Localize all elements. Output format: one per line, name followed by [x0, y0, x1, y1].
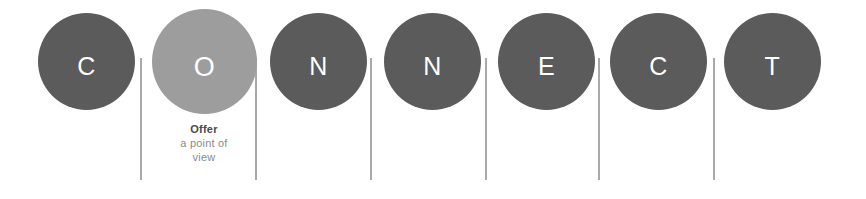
step-letter: T [765, 54, 781, 79]
step-circle-n1[interactable]: N [270, 13, 367, 110]
step-letter: C [77, 54, 96, 79]
step-separator-3 [370, 58, 372, 180]
connect-acronym-diagram: C O N N E C T Offer a point of view [0, 0, 866, 199]
step-letter: E [538, 54, 555, 79]
step-separator-6 [713, 58, 715, 180]
step-circle-t[interactable]: T [724, 13, 821, 110]
circle-shape: E [498, 13, 595, 110]
step-circle-o[interactable]: O [156, 13, 253, 110]
circle-shape: T [724, 13, 821, 110]
step-separator-4 [485, 58, 487, 180]
step-caption-title: Offer [139, 122, 269, 136]
step-circle-c2[interactable]: C [610, 13, 707, 110]
circle-shape: C [610, 13, 707, 110]
step-circle-n2[interactable]: N [384, 13, 481, 110]
circle-shape: N [270, 13, 367, 110]
step-letter: O [194, 54, 216, 81]
step-caption-line2: view [139, 150, 269, 164]
step-letter: N [423, 54, 442, 79]
circle-shape: C [38, 13, 135, 110]
step-caption-line1: a point of [139, 136, 269, 150]
step-circle-e[interactable]: E [498, 13, 595, 110]
circle-shape: O [152, 9, 257, 114]
step-letter: C [649, 54, 668, 79]
step-separator-5 [598, 58, 600, 180]
circle-shape: N [384, 13, 481, 110]
step-circle-c1[interactable]: C [38, 13, 135, 110]
step-caption: Offer a point of view [139, 122, 269, 164]
step-letter: N [309, 54, 328, 79]
